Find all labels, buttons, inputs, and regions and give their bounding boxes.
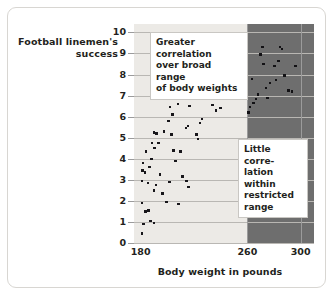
data-point — [151, 142, 153, 144]
annotation-restricted-line-3: restricted — [244, 190, 302, 202]
data-point — [252, 102, 254, 104]
data-point — [144, 210, 146, 212]
annotation-restricted-line-4: range — [244, 202, 302, 214]
data-point — [155, 132, 157, 134]
data-point — [247, 111, 249, 113]
data-point — [147, 209, 149, 211]
data-point — [153, 222, 155, 224]
x-axis-tick-180: 180 — [121, 246, 161, 257]
data-point — [177, 103, 179, 105]
data-point — [211, 104, 213, 106]
data-point — [141, 232, 143, 234]
data-point — [266, 97, 268, 99]
data-point — [257, 93, 259, 95]
data-point — [287, 89, 289, 91]
data-point — [172, 149, 174, 151]
scatter-plot-figure: Football linemen's success 012345678910 … — [0, 0, 335, 296]
data-point — [148, 166, 150, 168]
data-point — [259, 53, 261, 55]
data-point — [251, 78, 253, 80]
data-point — [177, 203, 179, 205]
y-axis-tick-5: 5 — [104, 133, 126, 143]
x-axis-tick-260: 260 — [227, 246, 267, 257]
annotation-broad-line-2: over broad range — [156, 60, 242, 83]
data-point — [281, 48, 283, 50]
x-axis-title: Body weight in pounds — [120, 266, 320, 277]
data-point — [145, 150, 147, 152]
data-point — [141, 180, 143, 182]
data-point — [294, 65, 296, 67]
y-axis-tick-7: 7 — [104, 91, 126, 101]
y-axis-title-line-2: success — [14, 48, 118, 60]
data-point — [215, 109, 217, 111]
data-point — [187, 186, 189, 188]
data-point — [153, 147, 155, 149]
y-axis-tick-2: 2 — [104, 196, 126, 206]
data-point — [179, 150, 181, 152]
annotation-broad-range: Greater correlation over broad range of … — [150, 32, 248, 100]
y-axis-tick-1: 1 — [104, 217, 126, 227]
data-point — [185, 127, 187, 129]
data-point — [171, 113, 173, 115]
data-point — [283, 74, 285, 76]
y-axis-tick-8: 8 — [104, 70, 126, 80]
data-point — [219, 107, 221, 109]
annotation-restricted-range: Little corre- lation within restricted r… — [238, 139, 308, 218]
data-point — [167, 120, 169, 122]
data-point — [188, 105, 190, 107]
gridline — [134, 117, 314, 118]
data-point — [153, 189, 155, 191]
x-axis-tick-300: 300 — [281, 246, 321, 257]
data-point — [275, 79, 277, 81]
data-point — [291, 90, 293, 92]
y-axis-tick-10: 10 — [104, 27, 126, 37]
y-axis-tick-4: 4 — [104, 154, 126, 164]
y-axis-title: Football linemen's success — [14, 36, 118, 60]
data-point — [168, 181, 170, 183]
data-point — [174, 160, 176, 162]
gridline — [134, 243, 314, 244]
data-point — [150, 158, 152, 160]
data-point — [149, 220, 151, 222]
data-point — [147, 182, 149, 184]
data-point — [262, 63, 264, 65]
data-point — [261, 46, 263, 48]
annotation-broad-line-1: Greater correlation — [156, 37, 242, 60]
data-point — [273, 65, 275, 67]
y-axis-title-line-1: Football linemen's — [14, 36, 118, 48]
data-point — [165, 201, 167, 203]
data-point — [195, 133, 197, 135]
y-axis-tick-6: 6 — [104, 112, 126, 122]
y-axis-tick-9: 9 — [104, 48, 126, 58]
data-point — [157, 142, 159, 144]
y-axis-tick-3: 3 — [104, 175, 126, 185]
data-point — [181, 175, 183, 177]
gridline — [134, 222, 314, 223]
data-point — [265, 87, 267, 89]
data-point — [277, 60, 279, 62]
data-point — [159, 173, 161, 175]
data-point — [170, 133, 172, 135]
data-point — [255, 98, 257, 100]
annotation-restricted-line-2: lation within — [244, 167, 302, 190]
data-point — [161, 192, 163, 194]
data-point — [142, 162, 144, 164]
data-point — [155, 184, 157, 186]
data-point — [144, 171, 146, 173]
annotation-restricted-line-1: Little corre- — [244, 144, 302, 167]
data-point — [197, 138, 199, 140]
data-point — [163, 130, 165, 132]
data-point — [249, 106, 251, 108]
data-point — [141, 202, 143, 204]
data-point — [169, 106, 171, 108]
data-point — [269, 82, 271, 84]
data-point — [199, 122, 201, 124]
data-point — [201, 118, 203, 120]
data-point — [142, 223, 144, 225]
data-point — [185, 180, 187, 182]
annotation-broad-line-3: of body weights — [156, 83, 242, 95]
